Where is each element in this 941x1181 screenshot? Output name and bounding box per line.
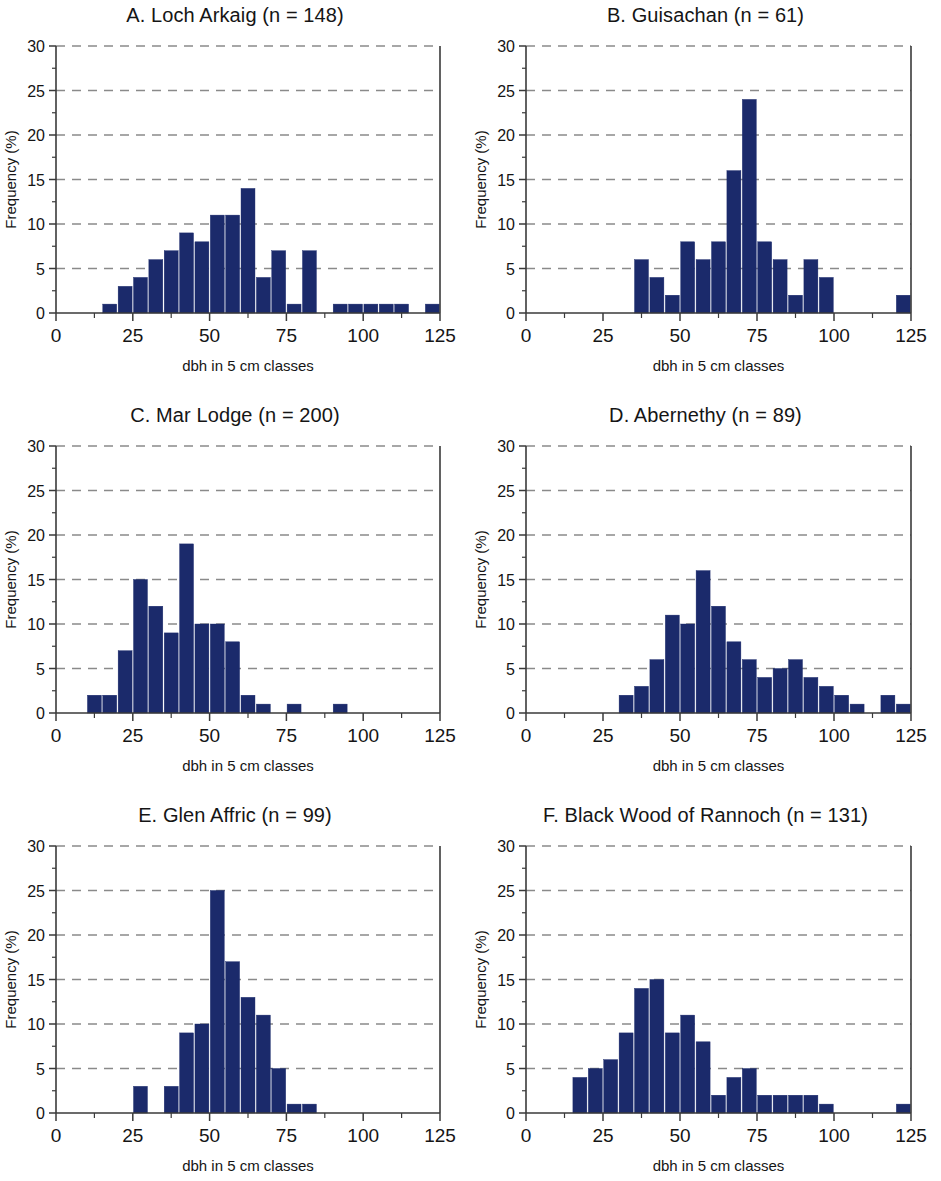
y-tick-label: 15 <box>497 572 515 589</box>
histogram-bar <box>118 651 132 713</box>
y-tick-label: 5 <box>506 1061 515 1078</box>
y-tick-label: 25 <box>27 83 45 100</box>
y-tick-label: 15 <box>27 972 45 989</box>
histogram-bar <box>210 215 224 313</box>
x-tick-label: 125 <box>895 1125 927 1146</box>
histogram-bar <box>287 1104 301 1113</box>
x-tick-label: 0 <box>521 325 532 346</box>
y-tick-label: 5 <box>36 661 45 678</box>
x-tick-label: 100 <box>818 1125 850 1146</box>
histogram-bar <box>272 251 286 313</box>
y-tick-label: 15 <box>27 172 45 189</box>
histogram-bar <box>226 962 240 1113</box>
panel-e-plot: 0510152025300255075100125Frequency (%)db… <box>0 800 470 1181</box>
histogram-bar <box>742 660 756 713</box>
histogram-bar <box>272 1069 286 1114</box>
histogram-bar <box>103 695 117 713</box>
histogram-bar <box>742 99 756 313</box>
histogram-bar <box>635 988 649 1113</box>
histogram-bar <box>681 1015 695 1113</box>
x-tick-label: 50 <box>199 325 220 346</box>
x-axis-label: dbh in 5 cm classes <box>653 757 785 774</box>
histogram-bar <box>696 260 710 313</box>
histogram-bar <box>149 260 163 313</box>
y-tick-label: 0 <box>36 305 45 322</box>
histogram-bar <box>604 1060 618 1113</box>
x-tick-label: 25 <box>122 325 143 346</box>
x-tick-label: 50 <box>199 1125 220 1146</box>
histogram-bar <box>850 704 864 713</box>
y-tick-label: 0 <box>36 705 45 722</box>
x-axis-label: dbh in 5 cm classes <box>182 757 314 774</box>
x-axis-label: dbh in 5 cm classes <box>653 1157 785 1174</box>
histogram-bar <box>665 295 679 313</box>
x-tick-label: 75 <box>746 725 767 746</box>
x-tick-label: 25 <box>592 1125 613 1146</box>
x-tick-label: 50 <box>199 725 220 746</box>
histogram-bar <box>302 1104 316 1113</box>
y-tick-label: 30 <box>27 838 45 855</box>
histogram-bar <box>180 544 194 713</box>
y-tick-label: 0 <box>36 1105 45 1122</box>
y-tick-label: 10 <box>27 216 45 233</box>
histogram-bar <box>650 277 664 313</box>
x-tick-label: 50 <box>669 325 690 346</box>
x-axis-label: dbh in 5 cm classes <box>182 357 314 374</box>
panel-a-plot: 0510152025300255075100125Frequency (%)db… <box>0 0 470 400</box>
histogram-bar <box>665 615 679 713</box>
histogram-bar <box>696 1042 710 1113</box>
y-tick-label: 15 <box>497 172 515 189</box>
x-tick-label: 0 <box>521 1125 532 1146</box>
histogram-bar <box>789 1095 803 1113</box>
y-axis-label: Frequency (%) <box>472 130 489 228</box>
panel-b: B. Guisachan (n = 61) 051015202530025507… <box>470 0 941 400</box>
y-tick-label: 10 <box>497 616 515 633</box>
histogram-bar <box>696 571 710 713</box>
histogram-bar <box>379 304 393 313</box>
x-tick-label: 50 <box>669 1125 690 1146</box>
x-tick-label: 0 <box>51 325 62 346</box>
histogram-bar <box>773 1095 787 1113</box>
x-tick-label: 0 <box>51 725 62 746</box>
histogram-bar <box>87 695 101 713</box>
histogram-bar <box>134 277 148 313</box>
y-tick-label: 30 <box>497 38 515 55</box>
x-tick-label: 100 <box>347 1125 379 1146</box>
histogram-bar <box>712 242 726 313</box>
panel-f: F. Black Wood of Rannoch (n = 131) 05101… <box>470 800 941 1181</box>
histogram-bar <box>789 295 803 313</box>
histogram-bar <box>835 695 849 713</box>
histogram-figure: A. Loch Arkaig (n = 148) 051015202530025… <box>0 0 941 1181</box>
x-tick-label: 75 <box>276 1125 297 1146</box>
histogram-bar <box>727 642 741 713</box>
x-tick-label: 125 <box>895 725 927 746</box>
x-tick-label: 0 <box>521 725 532 746</box>
histogram-bar <box>134 1086 148 1113</box>
panel-b-plot: 0510152025300255075100125Frequency (%)db… <box>470 0 941 400</box>
histogram-bar <box>180 1033 194 1113</box>
histogram-bar <box>364 304 378 313</box>
y-tick-label: 30 <box>497 838 515 855</box>
x-tick-label: 75 <box>746 1125 767 1146</box>
histogram-bar <box>287 704 301 713</box>
histogram-bar <box>773 260 787 313</box>
histogram-bar <box>742 1069 756 1114</box>
histogram-bar <box>635 686 649 713</box>
histogram-bar <box>588 1069 602 1114</box>
x-tick-label: 50 <box>669 725 690 746</box>
histogram-bar <box>302 251 316 313</box>
x-tick-label: 25 <box>592 725 613 746</box>
panel-c: C. Mar Lodge (n = 200) 05101520253002550… <box>0 400 470 800</box>
histogram-bar <box>134 580 148 714</box>
x-tick-label: 125 <box>424 325 456 346</box>
histogram-bar <box>195 242 209 313</box>
x-tick-label: 125 <box>895 325 927 346</box>
y-tick-label: 5 <box>36 261 45 278</box>
y-tick-label: 25 <box>27 883 45 900</box>
y-tick-label: 0 <box>506 705 515 722</box>
histogram-bar <box>395 304 409 313</box>
y-tick-label: 5 <box>506 661 515 678</box>
histogram-bar <box>896 704 910 713</box>
y-tick-label: 25 <box>497 83 515 100</box>
histogram-bar <box>349 304 363 313</box>
